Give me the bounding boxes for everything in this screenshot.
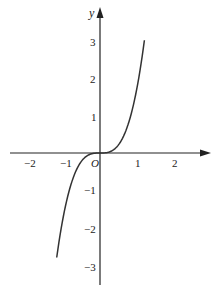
origin-label: O bbox=[91, 157, 99, 169]
y-axis-arrow-icon bbox=[97, 7, 104, 18]
y-tick-label: −3 bbox=[84, 261, 96, 273]
y-tick-label: −2 bbox=[84, 223, 96, 235]
x-tick-label: −1 bbox=[60, 157, 72, 169]
cubic-function-graph: y −2 −1 O 1 2 3 2 1 −1 −2 −3 bbox=[0, 0, 215, 299]
x-tick-label: 2 bbox=[172, 157, 178, 169]
x-tick-label: 1 bbox=[135, 157, 141, 169]
y-tick-label: 3 bbox=[90, 36, 96, 48]
y-tick-label: 2 bbox=[90, 73, 96, 85]
y-tick-label: −1 bbox=[84, 184, 96, 196]
x-tick-label: −2 bbox=[24, 157, 36, 169]
y-axis-label: y bbox=[88, 6, 95, 20]
y-tick-label: 1 bbox=[91, 111, 97, 123]
x-axis-arrow-icon bbox=[200, 150, 211, 157]
